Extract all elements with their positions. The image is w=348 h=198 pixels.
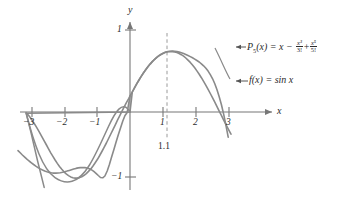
curve-p5-taylor <box>18 96 130 178</box>
taylor-polynomial-figure: −3 −2 −1 1 2 3 1 −1 y x 1.1 P5(x) = x − … <box>0 0 348 198</box>
curve-p5-right-branch <box>130 51 228 137</box>
y-axis-label: y <box>128 5 132 15</box>
curve-f-sin <box>26 52 231 179</box>
taylor-term-1-denominator: 3! <box>296 47 303 54</box>
x-tick-label--3: −3 <box>23 118 34 128</box>
y-tick-label--1: −1 <box>111 172 122 182</box>
taylor-arg: (x) = x − <box>256 41 293 52</box>
x-axis <box>20 109 272 115</box>
taylor-term-1: x³ 3! <box>296 40 303 55</box>
x-axis-label: x <box>277 106 281 116</box>
y-tick-label-1: 1 <box>117 25 122 35</box>
x-tick-label-2: 2 <box>193 118 198 128</box>
taylor-plus-sign: + <box>304 41 310 52</box>
label-function-sin: f(x) = sin x <box>249 75 293 85</box>
label-taylor-polynomial: P5(x) = x − x³ 3! + x⁵ 5! <box>247 40 318 55</box>
taylor-term-2: x⁵ 5! <box>310 40 317 55</box>
callout-leader-p5 <box>215 45 246 79</box>
callout-leader-fx <box>236 79 248 84</box>
x-tick-label-1: 1 <box>160 118 165 128</box>
x-tick-label--2: −2 <box>56 118 67 128</box>
x-tick-label-3: 3 <box>226 118 231 128</box>
annotation-x-1-1: 1.1 <box>158 142 170 152</box>
plot-canvas <box>0 0 348 198</box>
x-tick-label--1: −1 <box>89 118 100 128</box>
taylor-term-2-denominator: 5! <box>310 47 317 54</box>
